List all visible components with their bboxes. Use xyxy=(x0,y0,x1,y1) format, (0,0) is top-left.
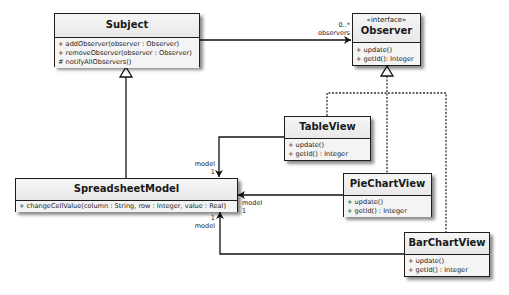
class-piechartview[interactable]: PieChartView + update() + getId() : Inte… xyxy=(343,173,432,217)
method: + getId() : Integer xyxy=(408,266,486,275)
label-barchart-multiplicity: 1 xyxy=(195,215,215,222)
class-piechartview-methods: + update() + getId() : Integer xyxy=(344,196,431,217)
label-piechart-multiplicity: 1 xyxy=(242,208,246,215)
method: + update() xyxy=(408,257,486,266)
label-tableview-multiplicity: 1 xyxy=(195,169,215,176)
method: + getId() : Integer xyxy=(288,150,367,159)
class-spreadsheetmodel[interactable]: SpreadsheetModel + changeCellValue(colum… xyxy=(15,178,238,212)
class-piechartview-name: PieChartView xyxy=(344,178,431,190)
class-subject-methods: + addObserver(observer : Observer) + rem… xyxy=(55,38,199,68)
method: + update() xyxy=(356,46,417,55)
class-barchartview-name: BarChartView xyxy=(405,237,489,249)
method: + removeObserver(observer : Observer) xyxy=(58,49,196,58)
class-tableview-header: TableView xyxy=(285,117,370,139)
generalization-triangle-icon xyxy=(120,67,132,77)
class-spreadsheetmodel-header: SpreadsheetModel xyxy=(16,179,237,201)
class-spreadsheetmodel-methods: + changeCellValue(column : String, row :… xyxy=(16,201,237,212)
label-piechart-role: model xyxy=(242,200,262,207)
class-subject-name: Subject xyxy=(55,19,199,31)
class-observer-methods: + update() + getId(): Integer xyxy=(353,43,420,65)
label-observers-role: observers xyxy=(310,30,350,37)
class-tableview-name: TableView xyxy=(285,121,370,133)
method: + update() xyxy=(288,141,367,150)
method: + addObserver(observer : Observer) xyxy=(58,40,196,49)
method: + update() xyxy=(347,198,428,207)
method: + getId() : Integer xyxy=(347,207,428,216)
label-barchart-role: model xyxy=(185,223,215,230)
class-barchartview[interactable]: BarChartView + update() + getId() : Inte… xyxy=(404,232,490,277)
association-tableview-model xyxy=(219,137,284,177)
class-tableview[interactable]: TableView + update() + getId() : Integer xyxy=(284,116,371,161)
class-barchartview-header: BarChartView xyxy=(405,233,489,255)
label-tableview-role: model xyxy=(185,161,215,168)
class-observer[interactable]: «interface» Observer + update() + getId(… xyxy=(352,13,421,66)
method: + getId(): Integer xyxy=(356,55,417,64)
class-barchartview-methods: + update() + getId() : Integer xyxy=(405,255,489,276)
class-subject-header: Subject xyxy=(55,14,199,38)
class-observer-header: «interface» Observer xyxy=(353,14,420,43)
class-spreadsheetmodel-name: SpreadsheetModel xyxy=(16,183,237,195)
association-barchart-model xyxy=(220,212,404,254)
method: + changeCellValue(column : String, row :… xyxy=(19,202,234,211)
realization-triangle-icon xyxy=(381,66,393,76)
class-observer-name: Observer xyxy=(353,25,420,37)
class-subject[interactable]: Subject + addObserver(observer : Observe… xyxy=(54,13,200,67)
class-observer-stereotype: «interface» xyxy=(353,14,420,25)
class-piechartview-header: PieChartView xyxy=(344,174,431,196)
label-observers-multiplicity: 0..* xyxy=(320,22,350,29)
method: # notifyAllObservers() xyxy=(58,58,196,67)
class-tableview-methods: + update() + getId() : Integer xyxy=(285,139,370,160)
